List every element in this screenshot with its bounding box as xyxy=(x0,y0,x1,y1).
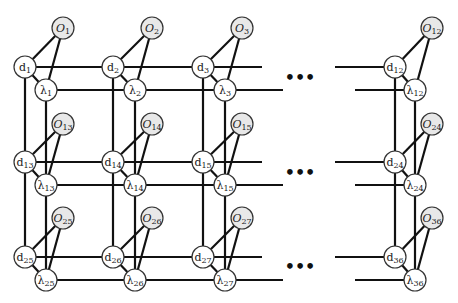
node-d-36: d36 xyxy=(384,246,406,268)
node-o-3: O3 xyxy=(231,17,253,39)
node-lambda-3: λ3 xyxy=(214,79,236,101)
nodes: O1d1λ1O2d2λ2O3d3λ3O12d12λ12O13d13λ13O14d… xyxy=(14,17,443,291)
ellipsis-0: ••• xyxy=(285,68,316,87)
node-lambda-12: λ12 xyxy=(404,79,426,101)
node-lambda-36: λ36 xyxy=(404,269,426,291)
node-lambda-15: λ15 xyxy=(214,174,236,196)
node-o-27: O27 xyxy=(231,207,253,229)
node-d-24: d24 xyxy=(384,151,406,173)
node-o-24: O24 xyxy=(421,113,443,135)
node-o-12: O12 xyxy=(421,17,443,39)
ellipses: ••••••••• xyxy=(285,68,316,276)
node-d-27: d27 xyxy=(192,246,214,268)
node-d-25: d25 xyxy=(14,246,36,268)
node-lambda-25: λ25 xyxy=(35,269,57,291)
node-lambda-27: λ27 xyxy=(214,269,236,291)
edges xyxy=(25,28,432,280)
node-lambda-24: λ24 xyxy=(404,174,426,196)
node-o-15: O15 xyxy=(231,113,253,135)
node-d-12: d12 xyxy=(384,56,406,78)
node-lambda-13: λ13 xyxy=(35,174,57,196)
node-o-36: O36 xyxy=(421,207,443,229)
node-o-26: O26 xyxy=(141,207,163,229)
node-d-1: d1 xyxy=(14,56,36,78)
node-o-25: O25 xyxy=(52,207,74,229)
node-o-13: O13 xyxy=(52,113,74,135)
node-d-26: d26 xyxy=(102,246,124,268)
node-d-14: d14 xyxy=(102,151,124,173)
node-d-3: d3 xyxy=(192,56,214,78)
node-lambda-2: λ2 xyxy=(124,79,146,101)
node-lambda-1: λ1 xyxy=(35,79,57,101)
node-d-15: d15 xyxy=(192,151,214,173)
ellipsis-2: ••• xyxy=(285,257,316,276)
node-lambda-14: λ14 xyxy=(124,174,146,196)
ellipsis-1: ••• xyxy=(285,163,316,182)
grid-factor-graph: O1d1λ1O2d2λ2O3d3λ3O12d12λ12O13d13λ13O14d… xyxy=(0,0,458,303)
node-d-13: d13 xyxy=(14,151,36,173)
node-d-2: d2 xyxy=(102,56,124,78)
node-o-1: O1 xyxy=(52,17,74,39)
node-o-14: O14 xyxy=(141,113,163,135)
node-o-2: O2 xyxy=(141,17,163,39)
node-lambda-26: λ26 xyxy=(124,269,146,291)
